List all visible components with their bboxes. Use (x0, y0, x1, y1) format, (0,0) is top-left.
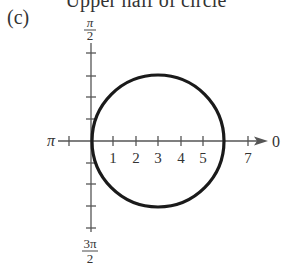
tick-label-2: 2 (132, 150, 140, 166)
polar-axis (58, 136, 262, 146)
label-pi: π (47, 132, 56, 149)
svg-text:3π: 3π (83, 236, 97, 251)
tick-label-1: 1 (109, 150, 117, 166)
tick-labels: 1 2 3 4 5 7 (109, 150, 252, 166)
tick-label-3: 3 (154, 150, 162, 166)
label-3pi-over-2: 3π 2 (82, 236, 98, 266)
svg-text:2: 2 (87, 251, 94, 266)
polar-graph: 1 2 3 4 5 7 0 π π 2 3π 2 (0, 0, 292, 278)
tick-label-4: 4 (177, 150, 185, 166)
svg-text:2: 2 (87, 28, 94, 43)
label-pi-over-2: π 2 (84, 15, 96, 43)
label-zero: 0 (272, 133, 280, 150)
tick-label-5: 5 (199, 150, 207, 166)
tick-label-7: 7 (244, 150, 252, 166)
